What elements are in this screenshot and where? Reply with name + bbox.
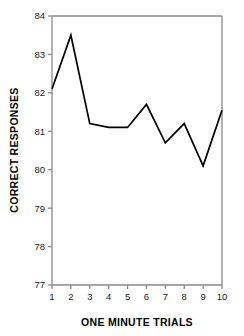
x-tick-label: 8 (182, 291, 187, 302)
y-axis-label: CORRECT RESPONSES (8, 87, 20, 212)
x-tick-label: 5 (125, 291, 130, 302)
x-tick-label: 1 (49, 291, 54, 302)
x-tick-label: 7 (163, 291, 168, 302)
y-tick-label: 79 (34, 203, 45, 214)
line-chart: 7778798081828384 12345678910 ONE MINUTE … (0, 0, 244, 336)
y-tick-label: 83 (34, 49, 45, 60)
x-tick-label: 9 (200, 291, 205, 302)
y-tick-label: 77 (34, 279, 45, 290)
x-tick-label: 3 (87, 291, 92, 302)
x-tick-label: 6 (144, 291, 149, 302)
y-tick-label: 78 (34, 241, 45, 252)
x-tick-label: 2 (68, 291, 73, 302)
y-tick-label: 84 (34, 10, 45, 21)
y-tick-label: 81 (34, 126, 45, 137)
y-tick-label: 82 (34, 87, 45, 98)
chart-container: 7778798081828384 12345678910 ONE MINUTE … (0, 0, 244, 336)
y-tick-label: 80 (34, 164, 45, 175)
x-tick-label: 10 (217, 291, 228, 302)
x-tick-label: 4 (106, 291, 111, 302)
x-axis-label: ONE MINUTE TRIALS (81, 316, 193, 328)
